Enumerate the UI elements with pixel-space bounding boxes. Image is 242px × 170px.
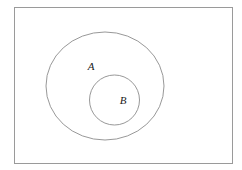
set-a-ellipse	[46, 32, 164, 140]
venn-diagram-container: A B	[0, 0, 242, 170]
set-a-label: A	[87, 60, 95, 72]
euler-diagram-canvas: A B	[0, 0, 242, 170]
universe-rectangle	[14, 7, 232, 163]
set-b-label: B	[120, 94, 127, 106]
set-b-circle	[90, 75, 140, 125]
